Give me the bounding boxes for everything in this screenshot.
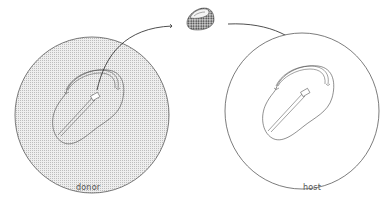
host-label: host <box>303 183 321 192</box>
graft-piece <box>187 8 214 30</box>
diagram-stage: donor host <box>0 0 384 205</box>
donor-label: donor <box>76 183 100 192</box>
donor-embryo <box>15 37 169 193</box>
host-embryo <box>225 33 379 189</box>
